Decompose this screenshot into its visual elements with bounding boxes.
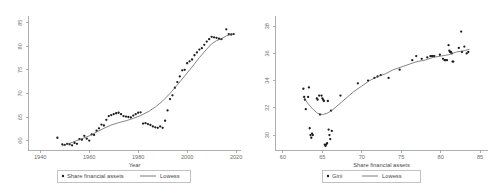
- data-point: [328, 134, 330, 136]
- data-point: [108, 115, 110, 117]
- data-point: [210, 36, 212, 38]
- plot-area: 19401960198020002020606570758085Year: [17, 16, 242, 168]
- data-point: [166, 109, 168, 111]
- data-point: [329, 138, 331, 140]
- data-point: [181, 69, 183, 71]
- data-point: [162, 127, 164, 129]
- legend-marker-icon: [62, 175, 64, 177]
- legend-label-series: Gini: [332, 173, 342, 179]
- legend-label-lowess: Lowess: [382, 173, 402, 179]
- data-point: [398, 69, 400, 71]
- lowess-curve: [303, 49, 469, 114]
- data-point: [331, 130, 333, 132]
- x-tick-label: 70: [359, 154, 365, 160]
- chart-legend: GiniLowess: [322, 170, 420, 182]
- data-point: [308, 86, 310, 88]
- x-tick-label: 60: [280, 154, 286, 160]
- data-point: [184, 69, 186, 71]
- data-point: [142, 122, 144, 124]
- x-tick-label: 75: [398, 154, 404, 160]
- data-point: [339, 94, 341, 96]
- data-point: [169, 98, 171, 100]
- data-point: [463, 45, 465, 47]
- x-tick-label: 2020: [230, 154, 242, 160]
- y-tick-label: 36: [264, 50, 270, 56]
- data-point: [446, 59, 448, 61]
- chart-panel-left: 19401960198020002020606570758085YearShar…: [0, 0, 247, 194]
- data-point: [164, 120, 166, 122]
- data-point: [179, 75, 181, 77]
- data-point: [203, 44, 205, 46]
- y-tick-label: 30: [264, 132, 270, 138]
- data-point: [139, 111, 141, 113]
- axis-lines: [28, 16, 241, 150]
- data-point: [135, 113, 137, 115]
- data-point: [307, 96, 309, 98]
- data-point: [83, 135, 85, 137]
- data-point: [137, 112, 139, 114]
- y-tick-label: 60: [17, 137, 23, 143]
- data-point: [130, 116, 132, 118]
- data-point: [447, 44, 449, 46]
- data-point: [411, 59, 413, 61]
- data-point: [387, 77, 389, 79]
- x-tick-label: 80: [438, 154, 444, 160]
- data-point: [327, 100, 329, 102]
- data-point: [467, 51, 469, 53]
- plot-area: 6065707580853032343638Share financial as…: [264, 16, 488, 168]
- chart-legend: Share financial assetsLowess: [57, 170, 190, 182]
- data-point: [305, 108, 307, 110]
- data-point: [196, 51, 198, 53]
- data-point: [125, 115, 127, 117]
- data-point: [198, 48, 200, 50]
- data-point: [191, 58, 193, 60]
- data-point: [316, 99, 318, 101]
- data-point: [312, 134, 314, 136]
- data-point: [132, 114, 134, 116]
- data-point: [100, 123, 102, 125]
- data-point: [460, 30, 462, 32]
- legend-label-series: Share financial assets: [67, 173, 124, 179]
- data-point: [357, 82, 359, 84]
- data-point: [147, 123, 149, 125]
- data-point: [326, 142, 328, 144]
- data-point: [71, 144, 73, 146]
- data-point: [320, 94, 322, 96]
- data-point: [302, 88, 304, 90]
- data-point: [120, 113, 122, 115]
- data-point: [225, 28, 227, 30]
- data-point: [309, 127, 311, 129]
- data-point: [115, 112, 117, 114]
- data-point: [327, 128, 329, 130]
- data-point: [206, 40, 208, 42]
- data-point: [76, 143, 78, 145]
- data-point: [152, 125, 154, 127]
- x-tick-label: 1960: [83, 154, 95, 160]
- data-point: [105, 119, 107, 121]
- data-point: [323, 100, 325, 102]
- data-point: [86, 138, 88, 140]
- data-point: [421, 58, 423, 60]
- data-point: [103, 124, 105, 126]
- data-point: [98, 127, 100, 129]
- scatter-series: [56, 28, 235, 146]
- data-point: [176, 81, 178, 83]
- y-tick-label: 34: [264, 77, 270, 83]
- data-point: [415, 55, 417, 57]
- data-point: [215, 37, 217, 39]
- data-point: [144, 122, 146, 124]
- y-tick-label: 80: [17, 43, 23, 49]
- data-point: [122, 115, 124, 117]
- x-tick-label: 65: [319, 154, 325, 160]
- chart-right-svg: 6065707580853032343638Share financial as…: [247, 0, 494, 194]
- data-point: [110, 114, 112, 116]
- y-tick-label: 65: [17, 114, 23, 120]
- data-point: [113, 113, 115, 115]
- data-point: [452, 60, 454, 62]
- data-point: [213, 36, 215, 38]
- y-tick-label: 38: [264, 23, 270, 29]
- x-tick-label: 85: [477, 154, 483, 160]
- data-point: [127, 116, 129, 118]
- data-point: [201, 47, 203, 49]
- data-point: [426, 56, 428, 58]
